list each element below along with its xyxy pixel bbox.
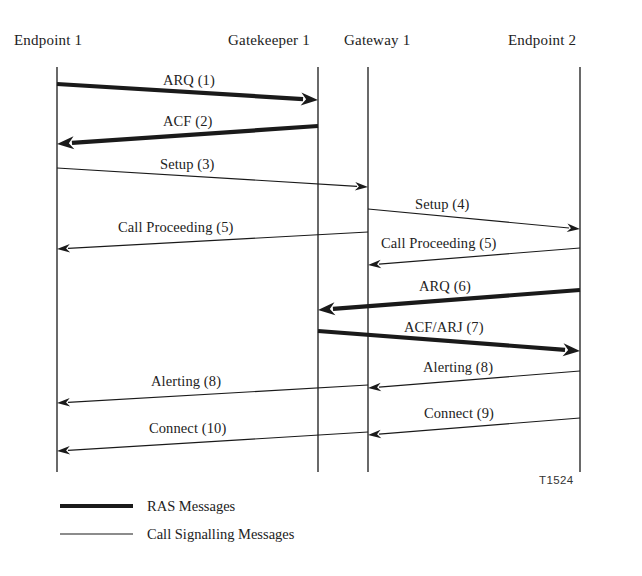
- message-arrowhead-acf-2: [57, 136, 74, 149]
- message-label-alerting-8-right: Alerting (8): [423, 359, 493, 376]
- message-label-call-proceeding-5-left: Call Proceeding (5): [118, 219, 233, 236]
- message-label-arq-6: ARQ (6): [419, 278, 471, 295]
- message-label-call-proceeding-5-right: Call Proceeding (5): [381, 235, 496, 252]
- message-label-setup-3: Setup (3): [160, 156, 214, 173]
- message-label-connect-10: Connect (10): [149, 420, 226, 437]
- message-label-alerting-8-left: Alerting (8): [151, 373, 221, 390]
- legend-label-legend-ras: RAS Messages: [147, 498, 235, 515]
- message-setup-4: [368, 209, 580, 232]
- figure-id: T1524: [539, 474, 574, 486]
- lifeline-label-gatekeeper-1: Gatekeeper 1: [228, 32, 310, 49]
- sequence-diagram: [0, 0, 642, 576]
- message-arrowhead-acf-arj-7: [563, 343, 580, 356]
- lifeline-label-endpoint-2: Endpoint 2: [508, 32, 576, 49]
- lifelines-group: [57, 67, 580, 472]
- message-label-connect-9: Connect (9): [424, 405, 494, 422]
- message-label-acf-2: ACF (2): [163, 113, 212, 130]
- lifeline-label-endpoint-1: Endpoint 1: [14, 32, 82, 49]
- legend-label-legend-call-signalling: Call Signalling Messages: [147, 526, 294, 543]
- message-arrowhead-arq-1: [301, 92, 318, 105]
- lifeline-label-gateway-1: Gateway 1: [344, 32, 410, 49]
- message-label-arq-1: ARQ (1): [163, 72, 215, 89]
- message-label-acf-arj-7: ACF/ARJ (7): [404, 319, 484, 336]
- message-label-setup-4: Setup (4): [415, 196, 469, 213]
- legend-lines-group: [60, 506, 133, 534]
- figure-canvas: Endpoint 1Gatekeeper 1Gateway 1Endpoint …: [0, 0, 642, 576]
- message-arrowhead-arq-6: [318, 302, 335, 315]
